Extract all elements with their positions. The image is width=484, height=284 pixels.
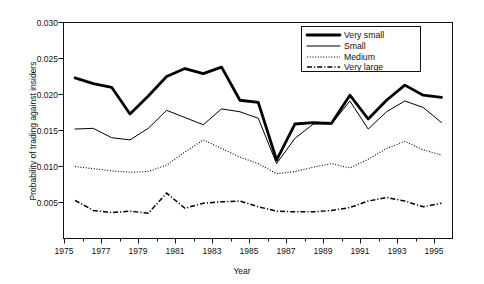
series-line-very-small [75,67,442,160]
plot-area: Very small Small Medium Very large [0,0,484,284]
chart-figure: Probability of trading against insiders … [0,0,484,284]
legend: Very small Small Medium Very large [302,27,421,73]
data-series-group [75,67,442,213]
y-tick-marks [59,23,64,203]
legend-label-small: Small [344,41,366,51]
series-line-medium [75,140,442,174]
legend-label-very-large: Very large [344,62,383,72]
series-line-small [75,101,442,164]
legend-label-medium: Medium [344,52,375,62]
series-line-very-large [75,193,442,213]
legend-label-very-small: Very small [344,30,384,40]
